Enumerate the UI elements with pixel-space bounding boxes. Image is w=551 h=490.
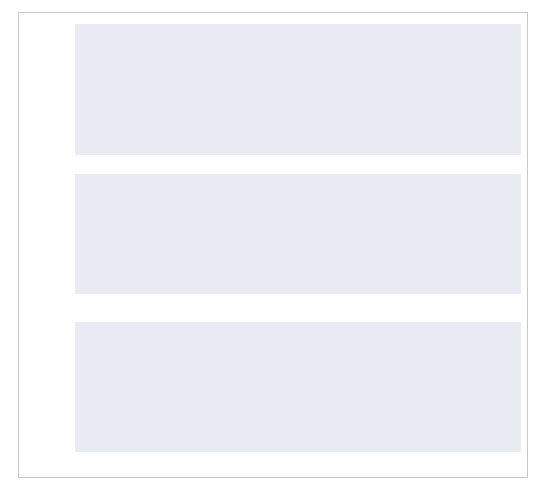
plot-area-errors-pct: [75, 322, 521, 452]
panel-errors-eur: [75, 174, 521, 294]
panel-errors-pct: [75, 322, 521, 452]
figure-canvas: [0, 0, 551, 490]
plot-area-errors-eur: [75, 174, 521, 294]
plot-area-option-values: [75, 24, 521, 155]
panel-option-values: [75, 24, 521, 155]
